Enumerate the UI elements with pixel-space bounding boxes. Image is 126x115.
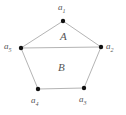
vertex-label-a5-sub: 5 — [9, 47, 12, 53]
vertex-label-a1: a1 — [58, 3, 66, 14]
vertex-dot-a4 — [36, 87, 40, 91]
vertex-label-a2-sub: 2 — [111, 47, 114, 53]
diagram-canvas: a1 a2 a3 a4 a5 A B — [0, 0, 126, 115]
vertex-label-a4-sub: 4 — [36, 101, 39, 107]
edge-a4-a5 — [21, 48, 38, 89]
edge-a5-a1 — [21, 21, 63, 48]
vertex-label-a5: a5 — [4, 42, 12, 53]
vertex-label-a2: a2 — [106, 42, 114, 53]
vertex-label-a3-sub: 3 — [84, 100, 87, 106]
edge-a2-a3 — [84, 47, 101, 88]
edge-a3-a4 — [38, 88, 84, 89]
region-label-A: A — [60, 31, 67, 42]
vertex-label-a4: a4 — [31, 96, 39, 107]
edge-a5-a2-diagonal — [21, 47, 101, 48]
vertex-dot-a2 — [99, 45, 103, 49]
region-label-B: B — [58, 62, 65, 73]
pentagon-diagram — [0, 0, 126, 115]
vertex-dot-a1 — [61, 19, 65, 23]
vertex-dot-a5 — [19, 46, 23, 50]
vertex-label-a1-sub: 1 — [63, 8, 66, 14]
edge-a1-a2 — [63, 21, 101, 47]
vertex-dot-a3 — [82, 86, 86, 90]
vertex-label-a3: a3 — [79, 95, 87, 106]
